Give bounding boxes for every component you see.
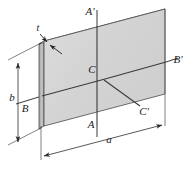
label-thickness: t xyxy=(37,22,40,33)
dim-b-ext-top xyxy=(8,43,41,60)
label-height-b: b xyxy=(9,91,15,103)
dim-b-ext-bottom xyxy=(8,128,41,145)
axis-bb-left-segment xyxy=(16,96,42,104)
label-axis-b-right: B' xyxy=(173,53,183,65)
label-axis-a-bottom: A xyxy=(87,118,95,130)
thickness-leader-upper xyxy=(40,34,47,42)
label-centroid-prime: C' xyxy=(139,105,149,117)
label-centroid: C xyxy=(88,63,96,75)
plate-left-edge-face xyxy=(39,41,44,129)
label-length-a: a xyxy=(106,133,112,145)
plate-diagram-canvas: A' A B B' C C' t a b xyxy=(0,0,188,177)
label-axis-a-top: A' xyxy=(84,5,95,17)
label-axis-b-left: B xyxy=(22,102,29,114)
plate-diagram-figure: A' A B B' C C' t a b xyxy=(0,0,188,177)
dim-a-line xyxy=(44,125,162,156)
